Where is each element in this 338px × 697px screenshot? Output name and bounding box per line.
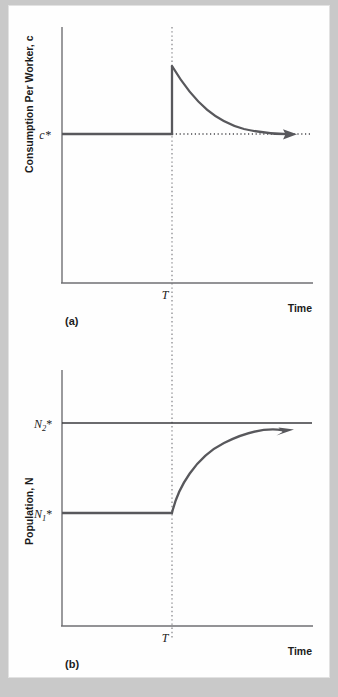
panel-b-rise-curve xyxy=(172,429,282,513)
panel-b-x-axis-title: Time xyxy=(288,645,312,657)
panel-b-y-tick-upper: N2* xyxy=(33,417,52,433)
figure-svg: Consumption Per Worker, c c* T Time (a) xyxy=(0,0,338,697)
panel-b-y-tick-upper-star: * xyxy=(46,417,52,431)
panel-b-label: (b) xyxy=(65,658,79,670)
panel-b-group: Population, N N2* N1* T Time (b) xyxy=(23,370,313,670)
panel-a-x-axis-title: Time xyxy=(288,302,312,314)
figure-page: Consumption Per Worker, c c* T Time (a) xyxy=(0,0,338,697)
panel-a-x-tick-label: T xyxy=(162,288,170,302)
panel-a-y-axis-title: Consumption Per Worker, c xyxy=(23,35,35,173)
panel-a-y-tick-label: c* xyxy=(39,128,50,142)
panel-b-x-tick-label: T xyxy=(162,631,170,645)
panel-b-y-tick-lower: N1* xyxy=(33,507,52,523)
panel-a-decay-curve xyxy=(172,66,288,134)
panel-b-y-tick-lower-star: * xyxy=(46,507,52,521)
panel-a-group: Consumption Per Worker, c c* T Time (a) xyxy=(23,27,313,327)
panel-a-label: (a) xyxy=(65,315,79,327)
